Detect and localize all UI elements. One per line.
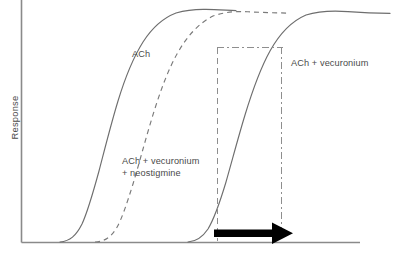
curve-label-ach: ACh xyxy=(132,48,150,60)
curve-label-ach-vecuronium: ACh + vecuronium xyxy=(291,57,368,69)
shift-arrow-icon xyxy=(214,223,293,245)
chart-canvas xyxy=(0,0,398,260)
curve-label-ach-vecuronium-neostigmine: ACh + vecuronium + neostigmine xyxy=(122,155,199,179)
curve-ach xyxy=(60,9,236,242)
curve-ach-vecuronium-neostigmine xyxy=(95,12,289,242)
dose-response-chart: ACh ACh + vecuronium ACh + vecuronium + … xyxy=(0,0,398,260)
curve-label-line-2: + neostigmine xyxy=(122,167,199,179)
curve-label-line-1: ACh + vecuronium xyxy=(122,155,199,167)
curve-ach-vecuronium xyxy=(188,11,390,242)
y-axis-label: Response xyxy=(9,78,20,158)
